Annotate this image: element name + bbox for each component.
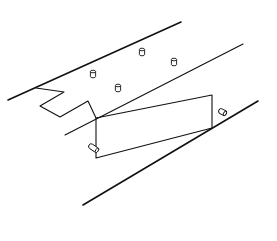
side-panel [96, 95, 212, 158]
horizontal-pegs [88, 108, 228, 153]
top-edge-line [8, 22, 181, 100]
middle-edge-line [65, 44, 243, 135]
vertical-peg-icon [139, 48, 144, 56]
vertical-pegs [90, 48, 176, 92]
horizontal-peg-icon [218, 108, 228, 117]
zigzag-cutout [36, 88, 96, 118]
vertical-peg-icon [115, 84, 120, 92]
bottom-edge-line [83, 101, 258, 205]
channel-drawing [0, 0, 277, 241]
horizontal-peg-icon [88, 143, 100, 153]
diagram-canvas [0, 0, 277, 241]
vertical-peg-icon [90, 70, 95, 78]
vertical-peg-icon [171, 58, 176, 66]
